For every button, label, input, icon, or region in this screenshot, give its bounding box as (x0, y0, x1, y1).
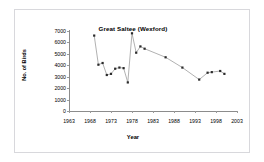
x-tick-mark (195, 111, 196, 113)
y-tick-label: 7000 (40, 28, 66, 34)
x-tick-mark (132, 111, 133, 113)
data-point-marker (123, 67, 125, 69)
x-tick-label: 2003 (231, 118, 243, 124)
x-tick-label: 1973 (105, 118, 117, 124)
x-tick-label: 1993 (189, 118, 201, 124)
data-point-marker (102, 62, 104, 64)
data-point-marker (118, 66, 120, 68)
data-point-marker (219, 70, 221, 72)
x-axis-label: Year (15, 134, 251, 140)
chart-frame: Great Saltee (Wexford) No. of Birds Year… (14, 9, 250, 153)
data-point-marker (131, 32, 133, 34)
series-line (94, 33, 224, 82)
x-tick-label: 1963 (63, 118, 75, 124)
x-tick-label: 1968 (84, 118, 96, 124)
x-tick-label: 1983 (147, 118, 159, 124)
x-tick-mark (153, 111, 154, 113)
y-tick-label: 5000 (40, 51, 66, 57)
x-tick-mark (174, 111, 175, 113)
x-tick-mark (69, 111, 70, 113)
data-point-marker (97, 64, 99, 66)
y-tick-label: 0 (40, 108, 66, 114)
plot-area: 01000200030004000500060007000 1963196819… (69, 31, 237, 111)
data-point-marker (181, 66, 183, 68)
data-point-marker (165, 56, 167, 58)
x-tick-mark (216, 111, 217, 113)
x-tick-mark (111, 111, 112, 113)
y-tick-label: 2000 (40, 85, 66, 91)
y-tick-label: 1000 (40, 97, 66, 103)
data-point-marker (207, 72, 209, 74)
x-tick-label: 1988 (168, 118, 180, 124)
x-tick-label: 1998 (210, 118, 222, 124)
y-tick-label: 3000 (40, 74, 66, 80)
x-tick-label: 1978 (126, 118, 138, 124)
data-point-marker (127, 81, 129, 83)
series-layer (69, 31, 237, 111)
data-point-marker (139, 45, 141, 47)
data-point-marker (110, 73, 112, 75)
data-point-marker (114, 68, 116, 70)
y-axis-label: No. of Birds (21, 43, 27, 87)
x-tick-mark (237, 111, 238, 113)
data-point-marker (93, 34, 95, 36)
data-point-marker (223, 73, 225, 75)
x-tick-mark (90, 111, 91, 113)
data-point-marker (198, 78, 200, 80)
data-point-marker (144, 48, 146, 50)
data-point-marker (135, 52, 137, 54)
data-point-marker (211, 71, 213, 73)
data-point-marker (106, 74, 108, 76)
y-tick-label: 4000 (40, 62, 66, 68)
y-tick-label: 6000 (40, 39, 66, 45)
